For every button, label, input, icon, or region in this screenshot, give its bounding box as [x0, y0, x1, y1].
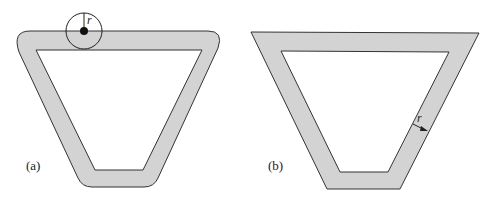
- panel-a: r (a): [17, 13, 220, 187]
- rounded-trapezoid-band: [17, 31, 220, 187]
- panel-b: r (b): [251, 32, 479, 189]
- radius-label-b: r: [417, 111, 422, 125]
- radius-label-a: r: [87, 13, 92, 27]
- sharp-trapezoid-band: [251, 32, 479, 189]
- figure-canvas: r (a) r (b): [0, 0, 494, 199]
- panel-label-a: (a): [26, 158, 40, 173]
- disc-center-dot: [80, 27, 88, 35]
- panel-label-b: (b): [268, 158, 283, 173]
